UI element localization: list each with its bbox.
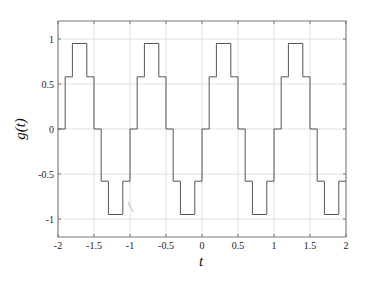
- x-tick-label: 1: [272, 240, 277, 251]
- x-tick-label: 0.5: [232, 240, 245, 251]
- y-tick-label: -0.5: [38, 169, 54, 180]
- y-tick-label: 0.5: [42, 79, 55, 90]
- y-tick-label: 0: [49, 124, 54, 135]
- y-tick-label: -1: [46, 214, 54, 225]
- y-axis-label: g(t): [12, 118, 29, 140]
- x-tick-label: -1: [126, 240, 134, 251]
- x-tick-label: -1.5: [86, 240, 102, 251]
- x-tick-label: 1.5: [304, 240, 317, 251]
- x-tick-label: -2: [54, 240, 62, 251]
- x-tick-label: -0.5: [158, 240, 174, 251]
- y-tick-label: 1: [49, 34, 54, 45]
- x-tick-label: 0: [200, 240, 205, 251]
- step-function-chart: -2-1.5-1-0.500.511.52 10.50-0.5-1 t g(t): [0, 0, 368, 283]
- x-tick-label: 2: [344, 240, 349, 251]
